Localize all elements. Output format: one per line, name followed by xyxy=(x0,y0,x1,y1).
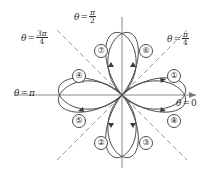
petal-number-1: ① xyxy=(167,69,181,83)
direction-marker-petal-6 xyxy=(130,62,136,67)
axis-label-theta-pi: θ=π xyxy=(14,89,35,98)
axis-label-theta-three-quarter-pi: θ=3π4 xyxy=(21,30,48,46)
equals-symbol: = xyxy=(79,12,89,22)
fraction-pi-over-4: π4 xyxy=(182,31,189,47)
fraction-pi-over-2: π2 xyxy=(89,9,96,25)
petal-number-7: ⑦ xyxy=(94,44,108,58)
fraction-denominator: 4 xyxy=(36,38,48,46)
fraction-3pi-over-4: 3π4 xyxy=(36,30,48,46)
petal-number-8: ⑧ xyxy=(167,114,181,128)
origin-convergence-marker-a xyxy=(115,88,122,95)
equals-symbol: = xyxy=(26,33,36,43)
equals-symbol: = xyxy=(19,88,29,98)
axis-label-theta-half-pi: θ=π2 xyxy=(74,9,96,25)
axis-label-theta-quarter-pi: θ=π4 xyxy=(167,31,189,47)
equals-symbol: = xyxy=(181,98,191,108)
origin-convergence-marker-b xyxy=(122,88,129,95)
petal-number-6: ⑥ xyxy=(139,44,153,58)
petal-number-3: ③ xyxy=(139,136,153,150)
fraction-denominator: 4 xyxy=(182,39,189,47)
axis-label-theta-zero: θ=0 xyxy=(176,99,197,108)
fraction-denominator: 2 xyxy=(89,17,96,25)
petal-number-5: ⑤ xyxy=(72,114,86,128)
pi-symbol: π xyxy=(29,88,35,98)
direction-marker-petal-3 xyxy=(130,123,136,128)
petal-number-2: ② xyxy=(94,136,108,150)
direction-marker-petal-7 xyxy=(108,62,114,67)
direction-marker-petal-2 xyxy=(108,123,114,128)
origin-convergence-marker-c xyxy=(115,95,122,102)
origin-convergence-marker-d xyxy=(122,95,129,102)
equals-symbol: = xyxy=(172,34,182,44)
petal-number-4: ④ xyxy=(72,69,86,83)
polar-rose-figure: θ=π2 θ=3π4 θ=π4 θ=π θ=0 ① ② ③ ④ ⑤ ⑥ ⑦ ⑧ xyxy=(0,0,214,175)
zero-value: 0 xyxy=(191,98,197,108)
